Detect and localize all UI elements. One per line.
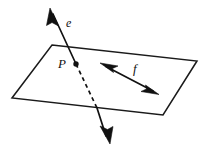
line-e-top-arrowhead-icon [47,8,59,26]
line-e-bottom-arrowhead-icon [100,126,113,144]
point-p-marker [73,61,78,66]
label-point-p: P [57,56,66,71]
line-e-hidden-segment [76,64,97,108]
plane-shape [12,45,197,115]
geometry-figure: e P f [0,0,207,153]
geometry-diagram-canvas: e P f [0,0,207,153]
label-line-f: f [133,61,139,76]
label-line-e: e [66,16,72,30]
